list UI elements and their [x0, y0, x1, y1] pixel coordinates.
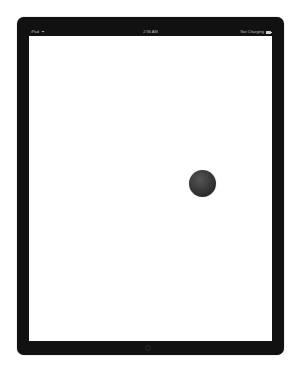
status-bar: iPad 2:36 AM Not Charging: [29, 28, 272, 36]
app-screen[interactable]: [29, 36, 272, 341]
status-right: Not Charging: [240, 28, 271, 36]
home-button[interactable]: [145, 345, 151, 351]
ball[interactable]: [189, 170, 216, 197]
charging-status: Not Charging: [240, 28, 264, 36]
status-time: 2:36 AM: [29, 28, 272, 36]
device-frame: iPad 2:36 AM Not Charging: [17, 17, 284, 355]
battery-icon: [266, 31, 271, 34]
